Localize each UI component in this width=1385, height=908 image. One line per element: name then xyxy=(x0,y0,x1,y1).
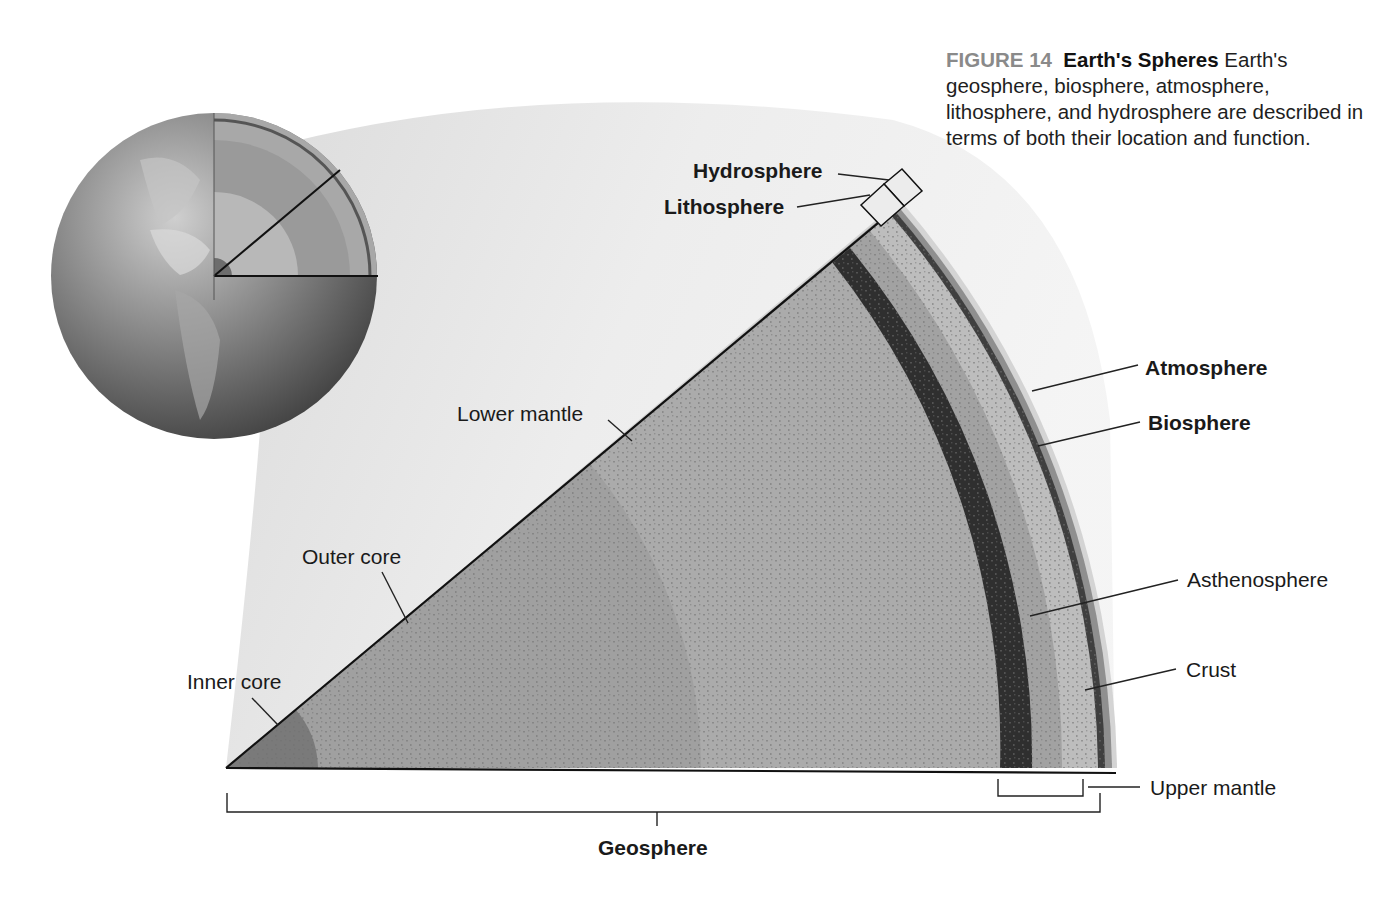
label-lithosphere: Lithosphere xyxy=(664,196,784,217)
globe-icon xyxy=(51,113,378,439)
label-crust: Crust xyxy=(1186,659,1236,680)
label-lower-mantle: Lower mantle xyxy=(457,403,583,424)
figure-title: Earth's Spheres xyxy=(1063,48,1218,71)
label-geosphere: Geosphere xyxy=(598,837,708,858)
figure-number: FIGURE 14 xyxy=(946,48,1052,71)
label-biosphere: Biosphere xyxy=(1148,412,1251,433)
label-atmosphere: Atmosphere xyxy=(1145,357,1268,378)
upper-mantle-bracket xyxy=(998,779,1083,796)
brackets xyxy=(227,779,1100,826)
label-asthenosphere: Asthenosphere xyxy=(1187,569,1328,590)
geosphere-bracket xyxy=(227,793,1100,812)
label-hydrosphere: Hydrosphere xyxy=(693,160,823,181)
earth-spheres-figure: FIGURE 14 Earth's Spheres Earth's geosph… xyxy=(0,0,1385,908)
figure-caption: FIGURE 14 Earth's Spheres Earth's geosph… xyxy=(946,47,1366,151)
label-outer-core: Outer core xyxy=(302,546,401,567)
label-upper-mantle: Upper mantle xyxy=(1150,777,1276,798)
label-inner-core: Inner core xyxy=(187,671,282,692)
